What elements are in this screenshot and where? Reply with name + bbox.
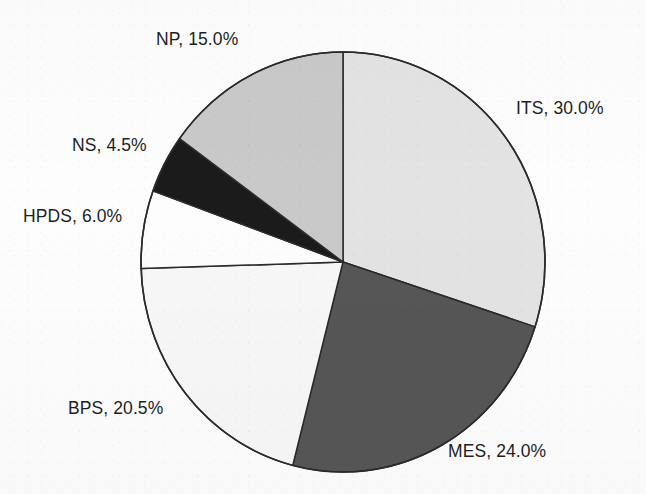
pie-chart-figure: . . . ITS, 30.0% MES, 24.0% BPS, 20.5% H… (0, 0, 646, 494)
pie-slice-group (141, 52, 545, 472)
pie-label-hpds: HPDS, 6.0% (23, 208, 122, 226)
pie-label-bps: BPS, 20.5% (68, 400, 163, 418)
pie-label-ns: NS, 4.5% (72, 137, 147, 155)
pie-label-np: NP, 15.0% (156, 31, 238, 49)
pie-label-its: ITS, 30.0% (516, 100, 604, 118)
pie-chart-canvas (0, 0, 646, 494)
pie-label-mes: MES, 24.0% (448, 443, 546, 461)
